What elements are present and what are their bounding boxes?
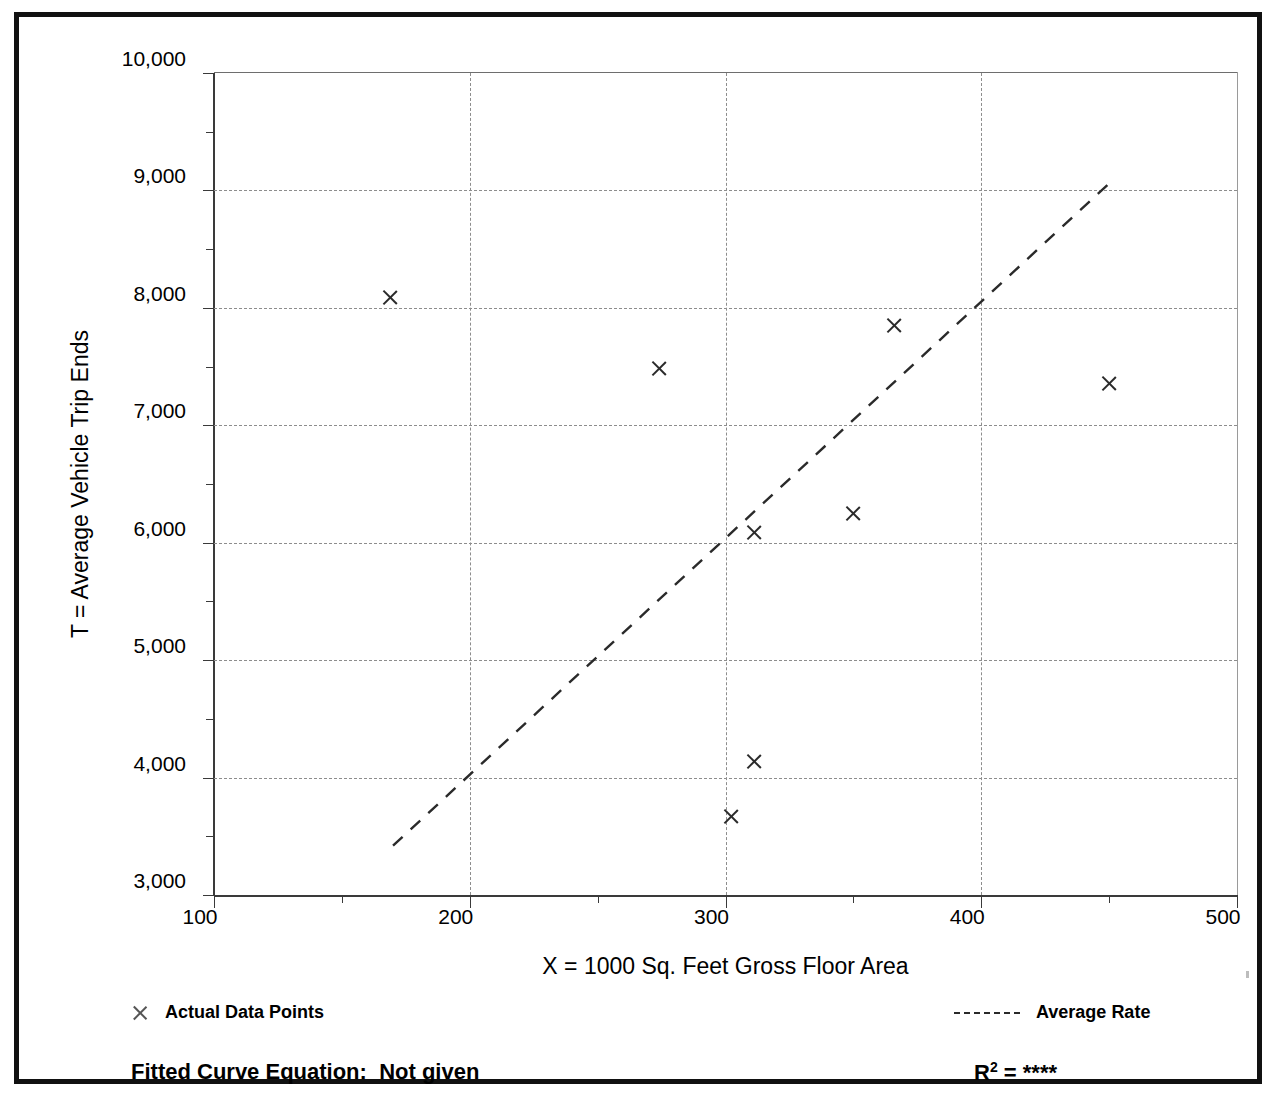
tick-y-6000: [203, 543, 214, 544]
data-point-marker: [844, 504, 863, 523]
y-tick-label-8000: 8,000: [96, 282, 186, 306]
data-point-marker: [1100, 374, 1119, 393]
fitted-curve-value: Not given: [379, 1059, 479, 1084]
tick-y-minor-3500: [206, 836, 214, 837]
x-tick-label-500: 500: [1178, 905, 1268, 929]
r-squared-label: R: [974, 1060, 990, 1085]
tick-y-3000: [203, 895, 214, 896]
plot-right-border: [1237, 72, 1238, 895]
y-axis-title: T = Average Vehicle Trip Ends: [67, 73, 97, 895]
x-tick-label-300: 300: [667, 905, 757, 929]
tick-y-8000: [203, 308, 214, 309]
data-point-marker: [744, 523, 763, 542]
fitted-curve-label: Fitted Curve Equation:: [131, 1059, 367, 1084]
y-tick-label-4000: 4,000: [96, 752, 186, 776]
dashed-line-icon: [954, 1012, 1020, 1014]
data-point-marker: [650, 359, 669, 378]
tick-x-minor-150: [342, 895, 343, 903]
tick-y-minor-8500: [206, 249, 214, 250]
figure-page: 3,0004,0005,0006,0007,0008,0009,00010,00…: [0, 0, 1278, 1098]
gridline-x-300: [726, 73, 727, 895]
y-tick-label-5000: 5,000: [96, 634, 186, 658]
y-tick-label-7000: 7,000: [96, 399, 186, 423]
x-tick-label-200: 200: [411, 905, 501, 929]
x-axis-title: X = 1000 Sq. Feet Gross Floor Area: [214, 953, 1237, 980]
y-tick-label-10000: 10,000: [96, 47, 186, 71]
data-point-marker: [721, 807, 740, 826]
tick-y-minor-9500: [206, 132, 214, 133]
scan-artifact-speck: [1246, 971, 1249, 978]
r-squared-equals: =: [1004, 1060, 1017, 1085]
y-tick-label-9000: 9,000: [96, 164, 186, 188]
legend-data-points: Actual Data Points: [131, 1002, 324, 1023]
tick-y-9000: [203, 190, 214, 191]
data-point-marker: [381, 288, 400, 307]
x-marker-icon: [131, 1004, 149, 1022]
tick-y-minor-6500: [206, 484, 214, 485]
tick-x-minor-450: [1109, 895, 1110, 903]
gridline-x-200: [470, 73, 471, 895]
x-tick-label-100: 100: [155, 905, 245, 929]
tick-y-minor-4500: [206, 719, 214, 720]
tick-x-minor-350: [853, 895, 854, 903]
fitted-curve-equation: Fitted Curve Equation: Not given: [131, 1059, 479, 1085]
r-squared-stars: ****: [1023, 1060, 1057, 1085]
x-tick-label-400: 400: [922, 905, 1012, 929]
tick-y-4000: [203, 778, 214, 779]
cut-off-title-fragment: [300, 0, 420, 6]
figure-frame: 3,0004,0005,0006,0007,0008,0009,00010,00…: [14, 12, 1262, 1084]
legend-data-points-label: Actual Data Points: [165, 1002, 324, 1023]
y-tick-label-3000: 3,000: [96, 869, 186, 893]
gridline-x-400: [981, 73, 982, 895]
legend-average-rate: Average Rate: [954, 1002, 1150, 1023]
y-tick-label-6000: 6,000: [96, 517, 186, 541]
tick-y-7000: [203, 425, 214, 426]
tick-x-minor-250: [598, 895, 599, 903]
legend-average-rate-label: Average Rate: [1036, 1002, 1150, 1023]
tick-y-5000: [203, 660, 214, 661]
data-point-marker: [744, 752, 763, 771]
tick-y-minor-5500: [206, 601, 214, 602]
tick-y-minor-7500: [206, 367, 214, 368]
tick-y-10000: [203, 73, 214, 74]
r-squared-value: R2 = ****: [974, 1059, 1057, 1086]
plot-area: [214, 73, 1237, 895]
r-squared-exponent: 2: [990, 1059, 998, 1075]
data-point-marker: [885, 316, 904, 335]
